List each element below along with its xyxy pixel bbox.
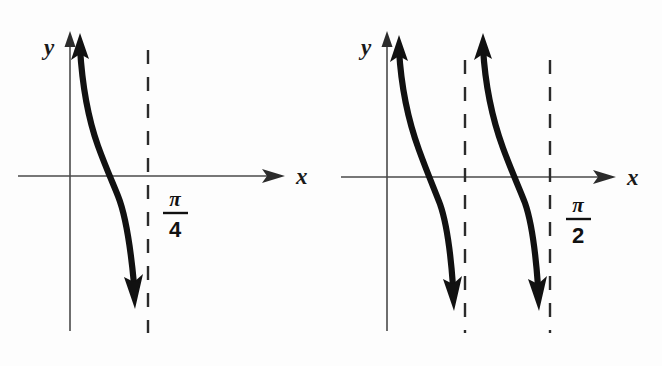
x-axis-right <box>341 170 616 184</box>
svg-text:4: 4 <box>169 217 182 242</box>
y-axis-right <box>382 31 393 331</box>
svg-text:π: π <box>572 193 584 217</box>
svg-text:2: 2 <box>572 223 584 248</box>
x-axis-left <box>18 169 285 183</box>
y-axis-label-left: y <box>41 35 55 60</box>
chart-panel-left: π 4 y x <box>0 0 331 366</box>
y-axis-label-right: y <box>358 35 372 60</box>
asymptote-label-left: π 4 <box>163 187 188 242</box>
cotangent-branch-1-right <box>390 35 462 311</box>
cotangent-branch-2-right <box>474 33 547 311</box>
figure-canvas: π 4 y x <box>0 0 662 366</box>
cotangent-branch-1-left <box>71 33 143 309</box>
y-axis-left <box>65 31 76 331</box>
x-axis-label-right: x <box>626 165 639 190</box>
chart-panel-right: π 2 y x <box>331 0 662 366</box>
x-axis-label-left: x <box>295 164 308 189</box>
svg-text:π: π <box>169 187 181 211</box>
asymptote-label-right: π 2 <box>566 193 591 248</box>
